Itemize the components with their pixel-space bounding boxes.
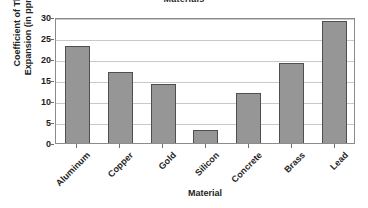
y-tick-mark [50, 102, 54, 103]
x-tick-mark [76, 144, 77, 148]
x-tick-mark [119, 144, 120, 148]
x-tick-label-aluminum: Aluminum [54, 150, 92, 188]
bar-brass [279, 63, 304, 143]
x-tick-mark [248, 144, 249, 148]
y-axis-title-line-2: Expansion (in ppm per °C) [23, 0, 33, 75]
plot-area [55, 18, 355, 144]
bar-slot [56, 19, 99, 143]
bar-gold [151, 84, 176, 143]
y-tick-mark [50, 81, 54, 82]
x-tick-label-silicon: Silicon [193, 150, 221, 178]
bar-slot [227, 19, 270, 143]
bar-silicon [193, 130, 218, 143]
x-tick-mark [334, 144, 335, 148]
x-tick-label-lead: Lead [328, 150, 350, 172]
bar-slot [99, 19, 142, 143]
y-axis-title-line-1: Coefficient of Thermal [12, 0, 22, 67]
y-tick-mark [50, 39, 54, 40]
x-tick-label-copper: Copper [106, 150, 135, 179]
x-tick-label-gold: Gold [157, 150, 179, 172]
bar-aluminum [65, 46, 90, 143]
y-tick-mark [50, 60, 54, 61]
bar-chart-figure: Materials Coefficient of Thermal Expansi… [0, 0, 368, 208]
y-axis-tick-labels: 051015202530 [34, 18, 51, 144]
bar-copper [108, 72, 133, 143]
x-tick-mark [291, 144, 292, 148]
y-tick-mark [50, 123, 54, 124]
y-tick-mark [50, 144, 54, 145]
bar-concrete [236, 93, 261, 143]
x-tick-label-concrete: Concrete [229, 150, 264, 185]
bar-lead [322, 21, 347, 143]
chart-title: Materials [0, 0, 368, 4]
x-tick-mark [205, 144, 206, 148]
x-tick-mark [162, 144, 163, 148]
bar-slot [185, 19, 228, 143]
x-axis-title: Material [55, 188, 355, 198]
bar-slot [313, 19, 355, 143]
bar-slot [270, 19, 313, 143]
y-axis-title: Coefficient of Thermal Expansion (in ppm… [10, 0, 36, 89]
y-tick-mark [50, 18, 54, 19]
bars-container [56, 19, 354, 143]
bar-slot [142, 19, 185, 143]
x-tick-label-brass: Brass [282, 150, 307, 175]
